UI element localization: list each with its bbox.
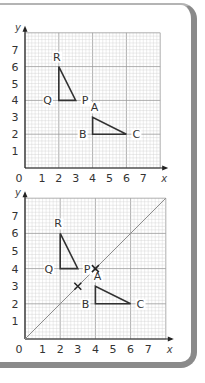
x-tick-label: 6 <box>127 343 134 356</box>
x-tick-label: 2 <box>55 172 62 185</box>
vertex-label-r: R <box>53 51 61 64</box>
x-tick-label: 6 <box>123 172 130 185</box>
x-axis-arrow-icon <box>168 337 174 342</box>
x-tick-label: 3 <box>72 172 79 185</box>
y-tick-label: 7 <box>12 44 19 57</box>
vertex-label-a: A <box>94 270 102 283</box>
y-tick-label: 2 <box>12 128 19 141</box>
vertex-label-c: C <box>137 298 145 311</box>
vertex-label-a: A <box>91 101 99 114</box>
y-tick-label: 6 <box>12 227 19 240</box>
y-tick-label: 7 <box>12 210 19 223</box>
vertex-label-b: B <box>79 128 87 141</box>
vertex-label-b: B <box>82 298 90 311</box>
vertex-label-r: R <box>54 217 62 230</box>
x-tick-label: 3 <box>74 343 81 356</box>
x-axis-label: x <box>160 173 167 184</box>
x-tick-label: 4 <box>89 172 96 185</box>
x-axis-label: x <box>166 344 173 355</box>
x-tick-label: 7 <box>145 343 152 356</box>
x-tick-label: 0 <box>16 343 23 356</box>
x-tick-label: 5 <box>106 172 113 185</box>
x-tick-label: 5 <box>110 343 117 356</box>
x-tick-label: 7 <box>140 172 147 185</box>
y-tick-label: 3 <box>12 111 19 124</box>
y-tick-label: 4 <box>12 263 19 276</box>
x-tick-label: 1 <box>38 172 45 185</box>
y-tick-label: 1 <box>12 315 19 328</box>
coordinate-grid-2: 012345671234567xyPQRABC <box>12 187 174 356</box>
y-tick-label: 1 <box>12 145 19 158</box>
x-tick-label: 0 <box>16 172 23 185</box>
vertex-label-q: Q <box>43 94 52 107</box>
y-tick-label: 4 <box>12 94 19 107</box>
y-tick-label: 5 <box>12 78 19 91</box>
y-tick-label: 2 <box>12 298 19 311</box>
vertex-label-p: P <box>82 94 89 107</box>
x-axis-arrow-icon <box>162 166 168 171</box>
y-axis-arrow-icon <box>23 26 28 32</box>
x-tick-label: 1 <box>39 343 46 356</box>
y-tick-label: 3 <box>12 280 19 293</box>
y-axis-label: y <box>14 22 22 33</box>
vertex-label-q: Q <box>45 263 54 276</box>
y-tick-label: 5 <box>12 245 19 258</box>
vertex-label-p: P <box>84 263 91 276</box>
y-axis-label: y <box>14 187 22 198</box>
coordinate-grid-1: 012345671234567xyPQRABC <box>12 22 169 185</box>
figure-canvas: 012345671234567xyPQRABC012345671234567xy… <box>0 0 205 383</box>
y-axis-arrow-icon <box>23 191 28 197</box>
y-tick-label: 6 <box>12 61 19 74</box>
vertex-label-c: C <box>132 128 140 141</box>
x-tick-label: 2 <box>57 343 64 356</box>
x-tick-label: 4 <box>92 343 99 356</box>
